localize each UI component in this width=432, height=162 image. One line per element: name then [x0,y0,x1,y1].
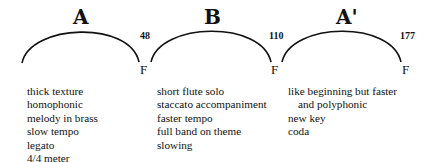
cadence-f-b: F [271,63,278,76]
feature-item: melody in brass [27,112,98,125]
cadence-f-a-prime: F [402,63,409,76]
section-label-b: B [204,7,221,27]
feature-item: short flute solo [157,85,267,98]
measure-number-a-prime: 177 [400,31,415,41]
feature-item: coda [288,125,397,138]
feature-item: and polyphonic [288,98,397,111]
feature-item: like beginning but faster [288,85,397,98]
cadence-f-a: F [140,63,147,76]
arc-section-a-prime [282,31,401,62]
feature-item: 4/4 meter [27,152,98,162]
feature-item: thick texture [27,85,98,98]
section-label-a: A [73,7,89,27]
feature-item: new key [288,112,397,125]
feature-item: full band on theme [157,125,267,138]
features-list-a-prime: like beginning but faster and polyphonic… [288,85,397,139]
measure-number-a: 48 [140,31,150,41]
feature-item: staccato accompaniment [157,98,267,111]
feature-item: homophonic [27,98,98,111]
feature-item: legato [27,139,98,152]
arc-section-b [151,31,271,62]
features-list-a: thick texture homophonic melody in brass… [27,85,98,162]
section-label-a-prime: A' [336,7,358,27]
features-list-b: short flute solo staccato accompaniment … [157,85,267,152]
arc-section-a [22,32,139,63]
feature-item: slow tempo [27,125,98,138]
measure-number-b: 110 [269,31,283,41]
feature-item: faster tempo [157,112,267,125]
feature-item: slowing [157,139,267,152]
